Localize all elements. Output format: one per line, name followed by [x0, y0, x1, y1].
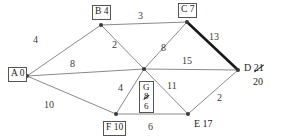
node-label-g: G 8 6	[139, 81, 154, 113]
edge-weight-g-f: 4	[118, 83, 123, 93]
node-label-a: A 0	[8, 67, 27, 82]
edge-a-g	[27, 69, 144, 76]
node-revised-d: 20	[253, 77, 263, 87]
vertex-e	[186, 112, 190, 116]
vertex-d	[236, 68, 240, 72]
node-label-b: B 4	[92, 5, 111, 20]
node-label-e: E 17	[194, 119, 213, 129]
vertex-g	[142, 67, 146, 71]
edge-weight-a-f: 10	[44, 100, 54, 110]
graph-diagram-canvas: A 0 B 4 C 7 D 21 20 E 17 F 10 G 8 6 4 8 …	[0, 0, 282, 138]
edge-weight-g-e: 11	[167, 81, 177, 91]
edge-weight-c-d: 13	[209, 32, 219, 42]
vertex-f	[114, 112, 118, 116]
edge-weight-c-g: 8	[161, 43, 166, 53]
vertex-b	[99, 23, 103, 27]
node-label-f: F 10	[103, 121, 126, 136]
node-value-d-struck: 21	[254, 63, 264, 73]
edge-weight-e-d: 2	[217, 93, 222, 103]
edge-weight-f-e: 6	[148, 122, 153, 132]
node-label-d: D 21	[244, 63, 264, 73]
edge-weight-g-d: 15	[182, 56, 192, 66]
edge-g-d	[144, 69, 238, 70]
edge-b-g	[101, 25, 144, 69]
edge-weight-a-b: 4	[33, 35, 38, 45]
edge-a-f	[27, 76, 116, 114]
node-label-c: C 7	[178, 3, 197, 18]
edge-b-c	[101, 22, 187, 25]
edge-lines	[27, 22, 238, 114]
node-value-g-struck: 8	[144, 92, 149, 101]
node-revised-g: 6	[144, 102, 149, 111]
edge-a-b	[27, 25, 101, 76]
vertex-c	[185, 20, 189, 24]
graph-vertices	[25, 20, 240, 116]
edge-weight-b-c: 3	[138, 11, 143, 21]
edge-weight-b-g: 2	[112, 40, 117, 50]
edge-c-d-highlighted	[187, 22, 238, 70]
edge-weight-a-g: 8	[70, 59, 75, 69]
edge-e-d	[188, 70, 238, 114]
